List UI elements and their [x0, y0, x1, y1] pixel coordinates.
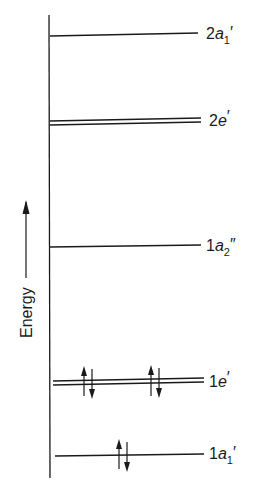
level-1e-prime: 1e′: [53, 365, 230, 399]
electron-pair: [148, 365, 162, 398]
spin-up-arrowhead-icon: [81, 366, 87, 376]
energy-axis-label: Energy: [18, 200, 35, 338]
level-label: 1a2″: [206, 236, 236, 258]
spin-down-arrowhead-icon: [156, 388, 162, 398]
electron-pair: [81, 366, 95, 399]
level-label: 2e′: [209, 108, 230, 129]
level-line: [55, 454, 204, 456]
level-line: [50, 33, 198, 36]
spin-up-arrowhead-icon: [116, 439, 122, 449]
level-line: [50, 245, 201, 247]
level-1a1-prime: 1a1′: [55, 439, 236, 472]
level-label: 1a1′: [209, 444, 236, 466]
level-line: [50, 118, 201, 121]
vertical-axis: [49, 15, 50, 478]
spin-up-arrowhead-icon: [148, 365, 154, 375]
energy-label: Energy: [18, 287, 35, 338]
energy-level-diagram: Energy 2a1′ 2e′ 1a2″ 1e′: [0, 0, 262, 496]
level-line: [53, 378, 204, 381]
level-label: 2a1′: [206, 24, 233, 46]
level-label: 1e′: [209, 369, 230, 390]
energy-arrowhead-icon: [23, 200, 30, 214]
spin-down-arrowhead-icon: [124, 462, 130, 472]
level-line-degenerate: [53, 382, 204, 385]
level-2a1-prime: 2a1′: [50, 24, 233, 46]
spin-down-arrowhead-icon: [89, 389, 95, 399]
level-line-degenerate: [50, 122, 201, 125]
level-2e-prime: 2e′: [50, 108, 230, 129]
level-1a2-double-prime: 1a2″: [50, 236, 236, 258]
